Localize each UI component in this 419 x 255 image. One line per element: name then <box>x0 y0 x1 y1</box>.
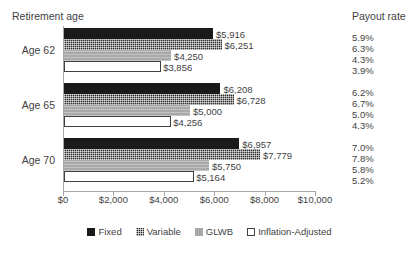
bar-value-label: $6,251 <box>225 39 254 50</box>
legend-label: Variable <box>147 226 181 237</box>
legend-label: Inflation-Adjusted <box>258 226 331 237</box>
payout-rate-value: 7.0% <box>352 142 400 153</box>
payout-rate-header: Payout rate <box>352 10 406 22</box>
bar-value-label: $5,750 <box>212 160 241 171</box>
legend-item[interactable]: Fixed <box>87 226 121 237</box>
legend-swatch-icon <box>87 228 95 236</box>
payout-rate-group: 5.9%6.3%4.3%3.9% <box>352 32 400 76</box>
bar-value-label: $4,250 <box>174 50 203 61</box>
legend-label: Fixed <box>98 226 121 237</box>
bar-value-label: $6,208 <box>223 83 252 94</box>
payout-rate-value: 5.0% <box>352 109 400 120</box>
bar-row: $6,728 <box>64 94 315 105</box>
x-axis-tick-label: $0 <box>58 194 69 205</box>
payout-rate-value: 4.3% <box>352 54 400 65</box>
payout-rate-value: 3.9% <box>352 65 400 76</box>
legend-swatch-icon <box>247 228 255 236</box>
bar-row: $5,750 <box>64 160 315 171</box>
bar-value-label: $7,779 <box>263 149 292 160</box>
bar-value-label: $5,000 <box>193 105 222 116</box>
bar-value-label: $5,916 <box>216 28 245 39</box>
x-axis-tick-label: $2,000 <box>99 194 128 205</box>
legend-swatch-icon <box>136 228 144 236</box>
bar-group: Age 62$5,916$6,251$4,250$3,856 <box>64 28 315 72</box>
bar-row: $5,916 <box>64 28 315 39</box>
x-axis-line <box>63 191 316 192</box>
bar-row: $3,856 <box>64 61 315 72</box>
bar[interactable]: $4,256 <box>64 116 171 127</box>
bar[interactable]: $3,856 <box>64 61 161 72</box>
bar-row: $5,164 <box>64 171 315 182</box>
payout-rate-value: 5.9% <box>352 32 400 43</box>
legend-swatch-icon <box>195 228 203 236</box>
chart-plot-area: Age 62$5,916$6,251$4,250$3,856Age 65$6,2… <box>63 26 315 192</box>
category-label: Age 65 <box>22 99 55 111</box>
payout-rate-value: 6.3% <box>352 43 400 54</box>
legend-item[interactable]: Inflation-Adjusted <box>247 226 331 237</box>
x-axis-tick-label: $4,000 <box>149 194 178 205</box>
payout-rate-value: 6.2% <box>352 87 400 98</box>
payout-rate-value: 7.8% <box>352 153 400 164</box>
bar-group: Age 65$6,208$6,728$5,000$4,256 <box>64 83 315 127</box>
legend-item[interactable]: Variable <box>136 226 181 237</box>
legend-label: GLWB <box>206 226 233 237</box>
x-axis-tick-labels: $0$2,000$4,000$6,000$8,000$10,000 <box>63 194 315 208</box>
bar[interactable]: $6,957 <box>64 138 239 149</box>
bar-row: $4,256 <box>64 116 315 127</box>
bar[interactable]: $6,208 <box>64 83 220 94</box>
bar[interactable]: $5,916 <box>64 28 213 39</box>
category-label: Age 62 <box>22 44 55 56</box>
bar-row: $7,779 <box>64 149 315 160</box>
payout-rate-value: 5.2% <box>352 175 400 186</box>
x-axis-tick-label: $8,000 <box>250 194 279 205</box>
bar-value-label: $6,957 <box>242 138 271 149</box>
bar[interactable]: $6,728 <box>64 94 234 105</box>
payout-rate-group: 7.0%7.8%5.8%5.2% <box>352 142 400 186</box>
bar-value-label: $4,256 <box>173 116 202 127</box>
bar-row: $6,208 <box>64 83 315 94</box>
payout-rate-value: 6.7% <box>352 98 400 109</box>
chart-legend: FixedVariableGLWBInflation-Adjusted <box>0 226 419 237</box>
bar-value-label: $6,728 <box>237 94 266 105</box>
bar[interactable]: $7,779 <box>64 149 260 160</box>
bar-value-label: $5,164 <box>196 171 225 182</box>
bar[interactable]: $5,000 <box>64 105 190 116</box>
category-label: Age 70 <box>22 154 55 166</box>
bar-group: Age 70$6,957$7,779$5,750$5,164 <box>64 138 315 182</box>
legend-item[interactable]: GLWB <box>195 226 233 237</box>
bar-row: $5,000 <box>64 105 315 116</box>
bar[interactable]: $5,164 <box>64 171 194 182</box>
bar-value-label: $3,856 <box>163 61 192 72</box>
x-axis-tick-label: $6,000 <box>200 194 229 205</box>
retirement-age-header: Retirement age <box>12 10 84 22</box>
payout-rate-value: 4.3% <box>352 120 400 131</box>
payout-rate-group: 6.2%6.7%5.0%4.3% <box>352 87 400 131</box>
payout-rate-value: 5.8% <box>352 164 400 175</box>
x-axis-tick-label: $10,000 <box>298 194 332 205</box>
bar[interactable]: $4,250 <box>64 50 171 61</box>
bar-row: $6,251 <box>64 39 315 50</box>
bar[interactable]: $5,750 <box>64 160 209 171</box>
bar-row: $6,957 <box>64 138 315 149</box>
bar-row: $4,250 <box>64 50 315 61</box>
bar[interactable]: $6,251 <box>64 39 222 50</box>
